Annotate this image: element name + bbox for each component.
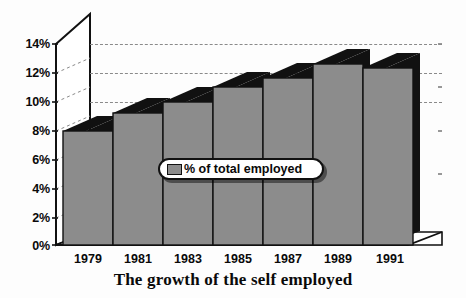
- x-tick-label: 1985: [224, 252, 252, 266]
- bar-1979: [63, 116, 120, 245]
- y-tick-label: 12%: [26, 66, 50, 80]
- x-axis-title: The growth of the self employed: [0, 270, 466, 290]
- y-tick-label: 4%: [32, 182, 50, 196]
- x-axis: 1979 1981 1983 1985 1987 1989 1991: [0, 252, 466, 268]
- x-tick-label: 1987: [274, 252, 302, 266]
- y-tick-label: 0%: [32, 239, 50, 253]
- x-tick-label: 1983: [174, 252, 202, 266]
- chart-figure: 14% 12% 10% 8% 6% 4% 2% 0% 1979 1981 198…: [0, 0, 466, 298]
- series-swatch-icon: [167, 164, 182, 175]
- bar-1989: [313, 49, 370, 245]
- y-tick-label: 2%: [32, 211, 50, 225]
- legend-label: % of total employed: [184, 162, 302, 176]
- y-tick-label: 14%: [26, 37, 50, 51]
- y-tick-label: 8%: [32, 124, 50, 138]
- x-tick-label: 1991: [376, 252, 404, 266]
- x-tick-label: 1981: [124, 252, 152, 266]
- x-tick-label: 1979: [74, 252, 102, 266]
- y-tick-label: 10%: [26, 95, 50, 109]
- plot-area: 14% 12% 10% 8% 6% 4% 2% 0% 1979 1981 198…: [0, 0, 466, 298]
- y-tick-label: 6%: [32, 153, 50, 167]
- chart-legend[interactable]: % of total employed: [158, 158, 324, 180]
- bar-1991: [363, 53, 420, 245]
- x-tick-label: 1989: [324, 252, 352, 266]
- bar-1987: [263, 63, 320, 245]
